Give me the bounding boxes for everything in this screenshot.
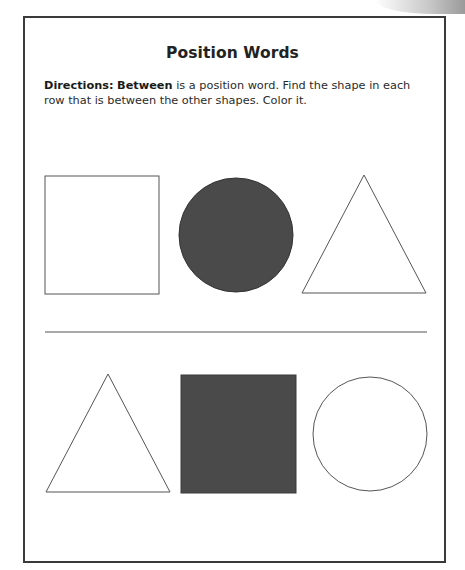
row-1-square-shape[interactable]	[45, 176, 159, 294]
row-2	[46, 374, 427, 493]
row-2-triangle-shape[interactable]	[46, 374, 170, 492]
row-1-triangle-shape[interactable]	[302, 175, 426, 293]
row-2-circle-shape[interactable]	[313, 377, 427, 491]
row-2-square-shape-filled[interactable]	[181, 375, 296, 493]
row-1-circle-shape-filled[interactable]	[179, 178, 293, 292]
shapes-canvas	[0, 0, 465, 570]
row-1	[45, 175, 426, 294]
